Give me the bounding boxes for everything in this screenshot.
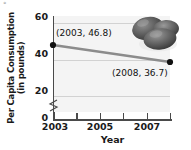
x-tick-mark-2006 — [123, 113, 124, 119]
x-tick-label-2005: 2005 — [83, 121, 117, 132]
annotation-2008: (2008, 36.7) — [112, 68, 168, 78]
chart-figure: ° Per Capita Consumption (in pounds) 60 … — [0, 0, 191, 150]
y-tick-label-60: 60 — [26, 11, 48, 22]
y-axis-title-line1: Per Capita Consumption — [6, 12, 16, 124]
gridline-40 — [54, 60, 170, 61]
y-tick-label-40: 40 — [26, 48, 48, 59]
y-tick-label-20: 20 — [26, 85, 48, 96]
x-tick-mark-2003 — [53, 113, 54, 119]
potatoes-photo-icon — [122, 14, 184, 56]
x-axis-title: Year — [53, 134, 172, 145]
x-tick-mark-2004 — [76, 113, 77, 119]
gridline-20 — [54, 96, 170, 97]
x-tick-mark-2008 — [170, 113, 171, 119]
axis-break-icon — [48, 99, 60, 113]
x-tick-mark-2005 — [100, 113, 101, 119]
x-tick-label-2007: 2007 — [130, 121, 164, 132]
x-tick-mark-2007 — [147, 113, 148, 119]
y-axis-title-line2: (in pounds) — [16, 6, 26, 130]
x-tick-label-2003: 2003 — [38, 121, 72, 132]
annotation-2003: (2003, 46.8) — [56, 28, 112, 38]
